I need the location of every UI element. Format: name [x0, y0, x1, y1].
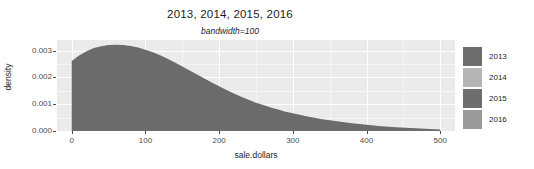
- legend-item[interactable]: 2016: [463, 109, 531, 130]
- legend-swatch-icon: [463, 89, 482, 108]
- y-tick-mark: [53, 51, 56, 52]
- x-tick-mark: [440, 131, 441, 134]
- legend-label: 2016: [489, 115, 507, 124]
- y-tick-label: 0.000: [12, 127, 52, 135]
- x-tick-mark: [145, 131, 146, 134]
- x-tick-mark: [72, 131, 73, 134]
- x-axis-title: sale.dollars: [57, 150, 455, 160]
- legend-label: 2015: [489, 94, 507, 103]
- chart-subtitle: bandwidth=100: [0, 26, 460, 36]
- x-tick-label: 400: [347, 136, 387, 145]
- y-tick-label: 0.003: [12, 47, 52, 55]
- y-axis-title: density: [3, 47, 13, 107]
- y-tick-label: 0.002: [12, 73, 52, 81]
- y-tick-mark: [53, 131, 56, 132]
- x-tick-mark: [293, 131, 294, 134]
- x-tick-mark: [219, 131, 220, 134]
- chart-title: 2013, 2014, 2015, 2016: [0, 8, 460, 20]
- legend-item[interactable]: 2013: [463, 46, 531, 67]
- x-tick-label: 100: [125, 136, 165, 145]
- legend-label: 2014: [489, 73, 507, 82]
- x-tick-label: 0: [52, 136, 92, 145]
- plot-panel: [57, 40, 455, 131]
- x-tick-label: 300: [273, 136, 313, 145]
- legend-label: 2013: [489, 52, 507, 61]
- y-axis-ticks: 0.0000.0010.0020.003: [8, 40, 52, 131]
- legend-item[interactable]: 2015: [463, 88, 531, 109]
- y-tick-mark: [53, 77, 56, 78]
- legend-swatch-icon: [463, 68, 482, 87]
- x-tick-mark: [367, 131, 368, 134]
- density-area-series: [57, 40, 455, 131]
- density-curve-path: [72, 45, 441, 131]
- x-tick-label: 500: [420, 136, 460, 145]
- legend-item[interactable]: 2014: [463, 67, 531, 88]
- y-tick-label: 0.001: [12, 100, 52, 108]
- legend: 2013201420152016: [463, 46, 531, 130]
- x-tick-label: 200: [199, 136, 239, 145]
- x-axis-ticks: 0100200300400500: [57, 131, 455, 149]
- legend-swatch-icon: [463, 110, 482, 129]
- y-tick-mark: [53, 104, 56, 105]
- chart-figure: 2013, 2014, 2015, 2016 bandwidth=100 0.0…: [0, 0, 534, 169]
- legend-swatch-icon: [463, 47, 482, 66]
